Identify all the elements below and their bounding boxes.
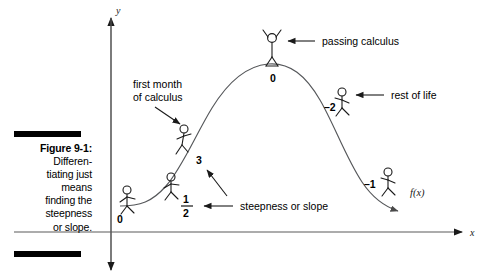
stick-figure-descender-1 (335, 88, 349, 116)
annotation-rest-of-life: rest of life (391, 89, 437, 101)
arrow-first-month (155, 107, 180, 124)
stick-figure-walker-1 (120, 186, 135, 214)
caption-line-6: or slope. (8, 221, 92, 234)
stick-figure-walker-2 (164, 173, 179, 200)
calculus-curve-figure: y x f(x) 0 1 2 3 0 –2 –1 (0, 0, 491, 280)
caption-line-3: means (8, 181, 92, 194)
slope-label-minus-1: –1 (364, 178, 376, 190)
svg-text:1: 1 (183, 193, 189, 205)
caption-line-5: steepness (8, 207, 92, 220)
annotation-passing-calculus: passing calculus (322, 35, 399, 47)
stick-figure-celebrating (263, 30, 281, 66)
annotation-steepness-or-slope: steepness or slope (240, 200, 328, 212)
x-axis-label: x (469, 227, 475, 238)
figure-page: y x f(x) 0 1 2 3 0 –2 –1 (0, 0, 491, 280)
caption-line-4: finding the (8, 194, 92, 207)
annotation-first-month-line2: of calculus (133, 91, 183, 103)
slope-label-0-start: 0 (117, 213, 123, 225)
arrow-steepness-up (207, 170, 227, 196)
annotation-first-month-line1: first month (133, 78, 182, 90)
slope-label-one-half: 1 2 (181, 193, 193, 219)
figure-caption: Figure 9-1: Differen- tiating just means… (8, 142, 92, 234)
svg-text:2: 2 (183, 207, 189, 219)
slope-label-0-peak: 0 (270, 72, 276, 84)
caption-label: Figure 9-1: (8, 142, 92, 155)
function-label: f(x) (410, 187, 425, 199)
caption-rule-top (14, 131, 81, 137)
slope-label-3: 3 (196, 154, 202, 166)
stick-figure-descender-2 (381, 168, 395, 196)
y-axis-label: y (115, 5, 121, 16)
caption-line-2: tiating just (8, 168, 92, 181)
caption-line-1: Differen- (8, 155, 92, 168)
caption-rule-bottom (14, 251, 81, 257)
slope-label-minus-2: –2 (324, 101, 336, 113)
